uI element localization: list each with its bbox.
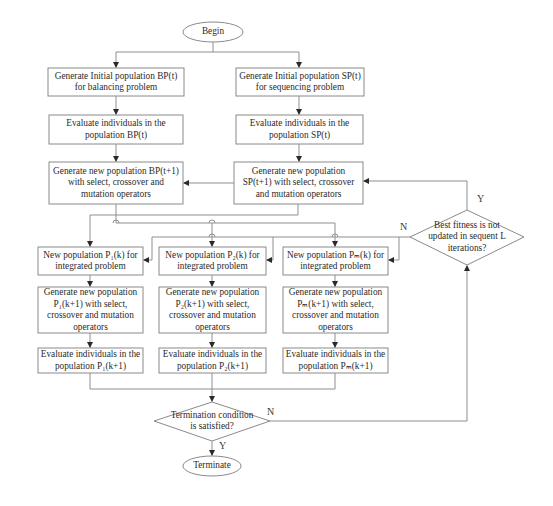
begin-label: Begin [183,22,243,42]
edge-no-to-new-p1 [144,237,152,260]
edge-gen-sp-bus [90,204,298,215]
gen-sp-label: Generate new population SP(t+1) with sel… [234,162,363,204]
eval-p2-label: Evaluate individuals in the population P… [159,348,266,373]
best-fitness-label: Best fitness is not updated in sequent L… [420,218,514,256]
gen-bp-label: Generate new population BP(t+1) with sel… [49,162,183,204]
gen-p2-label: Generate new population P₂(k+1) with sel… [159,287,266,333]
gen-p1-label: Generate new population P₁(k+1) with sel… [38,287,143,333]
new-p2-label: New population P₂(k) for integrated prob… [159,247,266,275]
eval-sp-label: Evaluate individuals in the population S… [236,115,363,144]
best-fitness-yes-label: Y [477,193,484,204]
edge-begin-to-init-sp [213,52,299,67]
termination-yes-label: Y [219,440,226,451]
init-bp-label: Generate Initial population BP(t) for ba… [48,68,184,96]
edge-no-to-new-p2 [267,237,273,260]
termination-no-label: N [267,406,274,417]
eval-p1-label: Evaluate individuals in the population P… [38,348,143,373]
termination-label: Termination condition is satisfied? [162,409,262,433]
new-pm-label: New population Pₘ(k) for integrated prob… [283,247,388,275]
edge-begin-to-init-bp [116,52,213,67]
edge-no-to-new-pm [389,237,399,260]
edge-gen-bp-bus [116,204,335,223]
new-p1-label: New population P₁(k) for integrated prob… [38,247,143,275]
terminate-label: Terminate [183,456,241,476]
init-sp-label: Generate Initial population SP(t) for se… [236,68,364,96]
eval-bp-label: Evaluate individuals in the population B… [49,115,183,144]
gen-pm-label: Generate new population Pₘ(k+1) with sel… [283,287,388,333]
best-fitness-no-label: N [400,221,407,232]
edge-best-fitness-yes [364,181,467,210]
eval-pm-label: Evaluate individuals in the population P… [283,348,388,373]
